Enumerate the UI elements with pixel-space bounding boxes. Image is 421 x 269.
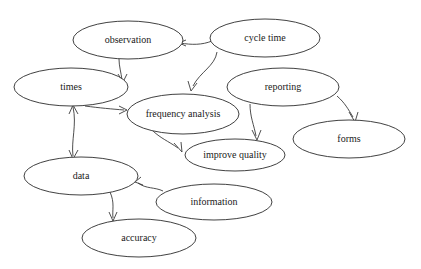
edge-times-data	[69, 105, 78, 159]
concept-map-canvas: observation cycle time times reporting f…	[0, 0, 421, 269]
node-information[interactable]: information	[156, 184, 272, 220]
node-data[interactable]: data	[24, 157, 138, 195]
edge-reporting-improve-quality	[250, 104, 261, 140]
node-reporting[interactable]: reporting	[227, 68, 339, 106]
node-observation[interactable]: observation	[73, 21, 183, 59]
node-information-label: information	[190, 196, 237, 207]
edge-data-accuracy	[109, 192, 117, 221]
node-observation-label: observation	[105, 34, 152, 45]
node-forms-label: forms	[337, 133, 360, 144]
node-reporting-label: reporting	[265, 81, 302, 92]
node-frequency-analysis[interactable]: frequency analysis	[127, 94, 239, 134]
node-cycle-time-label: cycle time	[244, 32, 286, 43]
edge-reporting-forms	[337, 96, 358, 122]
edge-information-data	[135, 177, 163, 191]
node-cycle-time[interactable]: cycle time	[210, 19, 320, 57]
nodes-layer: observation cycle time times reporting f…	[14, 19, 405, 257]
node-accuracy-label: accuracy	[121, 232, 157, 243]
node-times-label: times	[60, 81, 82, 92]
node-improve-quality[interactable]: improve quality	[185, 139, 285, 171]
node-times[interactable]: times	[14, 68, 128, 106]
node-accuracy[interactable]: accuracy	[82, 219, 196, 257]
node-data-label: data	[73, 170, 90, 181]
node-frequency-analysis-label: frequency analysis	[146, 108, 221, 119]
node-improve-quality-label: improve quality	[203, 149, 267, 160]
edge-cycle-time-frequency-analysis	[188, 52, 217, 91]
diagram-svg: observation cycle time times reporting f…	[0, 0, 421, 269]
edge-cycle-time-observation	[179, 40, 212, 46]
edge-times-frequency-analysis	[85, 106, 127, 114]
node-forms[interactable]: forms	[293, 120, 405, 158]
